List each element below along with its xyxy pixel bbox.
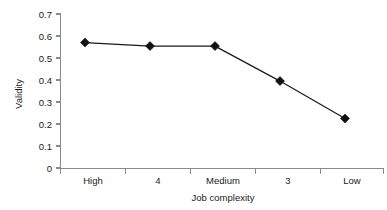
y-axis-tick-labels: 0.7 0.6 0.5 0.4 0.3 0.2 0.1 0 <box>39 9 52 174</box>
chart-container: 0.7 0.6 0.5 0.4 0.3 0.2 0.1 0 High 4 Med… <box>0 0 387 210</box>
x-tick-label-3: 3 <box>285 175 290 186</box>
x-tick-label-high: High <box>83 175 103 186</box>
y-axis-ticks <box>56 14 61 168</box>
y-tick-label-5: 0.5 <box>39 53 52 64</box>
data-point-high[interactable] <box>81 38 90 47</box>
y-axis-title: Validity <box>13 79 24 109</box>
y-tick-label-0: 0 <box>47 163 52 174</box>
series-markers-validity <box>81 38 350 123</box>
y-tick-label-2: 0.2 <box>39 119 52 130</box>
y-tick-label-3: 0.3 <box>39 97 52 108</box>
y-tick-label-7: 0.7 <box>39 9 52 20</box>
data-point-4[interactable] <box>146 42 155 51</box>
data-point-3[interactable] <box>276 77 285 86</box>
y-tick-label-6: 0.6 <box>39 31 52 42</box>
x-tick-label-4: 4 <box>155 175 160 186</box>
x-tick-label-low: Low <box>343 175 361 186</box>
data-point-low[interactable] <box>341 114 350 123</box>
x-tick-label-medium: Medium <box>206 175 240 186</box>
series-line-validity <box>85 43 345 119</box>
x-axis-title: Job complexity <box>192 192 255 203</box>
y-tick-label-4: 0.4 <box>39 75 52 86</box>
validity-job-complexity-line-chart: 0.7 0.6 0.5 0.4 0.3 0.2 0.1 0 High 4 Med… <box>0 0 387 210</box>
y-tick-label-1: 0.1 <box>39 141 52 152</box>
x-axis-ticks <box>61 169 384 175</box>
x-axis-tick-labels: High 4 Medium 3 Low <box>83 175 361 186</box>
data-point-medium[interactable] <box>211 42 220 51</box>
